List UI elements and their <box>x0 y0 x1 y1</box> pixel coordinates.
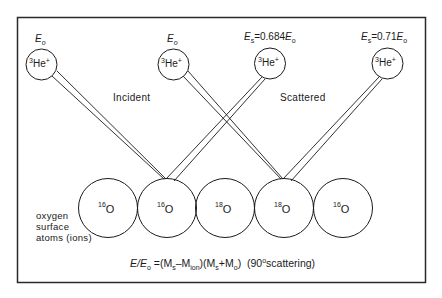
atom-4-label: 18O <box>274 202 290 213</box>
ion-3-symbol: 3He+ <box>258 58 279 68</box>
incident-label: Incident <box>113 92 150 103</box>
ion-2-symbol: 3He+ <box>161 59 182 69</box>
atom-3-label: 18O <box>215 202 231 213</box>
ion-scattering-diagram <box>0 0 442 298</box>
ion-4-symbol: 3He+ <box>375 58 396 68</box>
ion-3-energy-label: Es=0.684Eo <box>244 32 296 42</box>
energy-ratio-formula: E/Eo =(Ms–Mion)(Ms+Mo) (90oscattering) <box>130 257 315 269</box>
scattered-beam-1 <box>166 77 265 181</box>
scattered-label: Scattered <box>280 92 326 103</box>
atom-1-label: 16O <box>98 202 114 213</box>
incident-beam-2 <box>183 71 283 179</box>
atom-5-label: 16O <box>333 202 349 213</box>
ion-2-energy-label: Eo <box>167 34 178 44</box>
atom-2-label: 16O <box>157 202 173 213</box>
surface-atoms-legend: oxygen surface atoms (ions) <box>36 210 92 243</box>
legend-line-3: atoms (ions) <box>36 232 92 243</box>
incident-beam-1 <box>52 71 166 179</box>
ion-1-symbol: 3He+ <box>29 59 50 69</box>
legend-line-1: oxygen <box>36 210 92 221</box>
legend-line-2: surface <box>36 221 92 232</box>
ion-1-energy-label: Eo <box>35 34 46 44</box>
ion-4-energy-label: Es=0.71Eo <box>361 32 407 42</box>
